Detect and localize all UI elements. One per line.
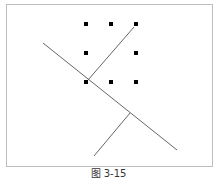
- data-point: [134, 22, 138, 26]
- data-point: [134, 80, 138, 84]
- normal-vector-line: [88, 27, 134, 80]
- data-point: [84, 22, 88, 26]
- data-point: [134, 51, 138, 55]
- data-point: [84, 80, 88, 84]
- perpendicular-line: [94, 113, 130, 156]
- separating-line: [43, 43, 177, 150]
- data-point: [84, 51, 88, 55]
- data-point: [109, 80, 113, 84]
- figure-caption: 图 3-15: [0, 168, 217, 180]
- diagram-canvas: [0, 0, 217, 180]
- data-point: [109, 22, 113, 26]
